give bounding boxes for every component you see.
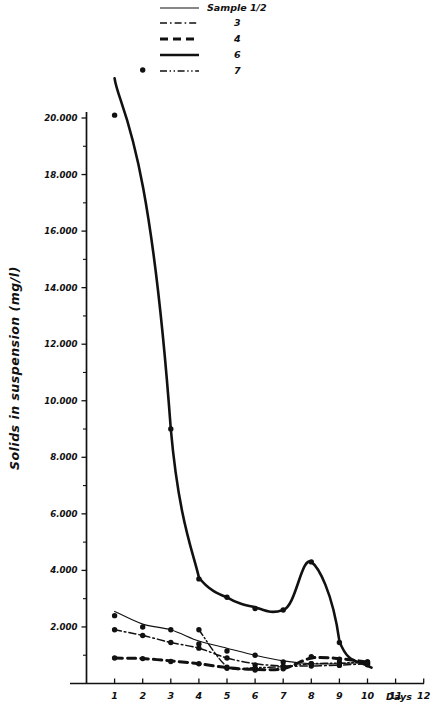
x-tick-label-9: 9: [336, 690, 343, 701]
y-axis-title: Solids in suspension (mg/l): [7, 266, 22, 470]
y-axis-tick-labels: 2.0004.0006.0008.00010.00012.00014.00016…: [44, 113, 77, 632]
data-point: [309, 661, 314, 666]
chart-container: Sample 1/2 3 4 6 7 2.0004.0006.0008.0: [0, 0, 446, 725]
solids-in-suspension-chart: Sample 1/2 3 4 6 7 2.0004.0006.0008.0: [0, 0, 446, 725]
data-point: [196, 576, 201, 581]
data-point: [196, 645, 201, 650]
x-tick-label-10: 10: [361, 690, 375, 701]
data-point: [224, 655, 229, 660]
x-tick-label-7: 7: [280, 690, 287, 701]
data-point: [112, 655, 117, 660]
data-point: [252, 666, 257, 671]
data-point: [365, 659, 370, 664]
y-tick-label-2.000: 2.000: [50, 622, 77, 632]
data-point: [281, 664, 286, 669]
y-tick-label-14.000: 14.000: [44, 283, 77, 293]
data-point: [140, 656, 145, 661]
data-point: [252, 606, 257, 611]
data-point: [337, 661, 342, 666]
y-tick-label-10.000: 10.000: [44, 396, 77, 406]
y-tick-label-20.000: 20.000: [44, 113, 77, 123]
data-point: [196, 661, 201, 666]
data-point: [309, 654, 314, 659]
x-axis-title: Days: [386, 691, 412, 702]
data-point: [168, 627, 173, 632]
legend-label-2: 4: [233, 33, 241, 44]
x-tick-label-3: 3: [167, 690, 174, 701]
data-point: [112, 627, 117, 632]
legend-entry-0: Sample 1/2: [160, 2, 267, 13]
x-axis-tick-labels: 123456789101112: [111, 690, 430, 701]
y-axis: 2.0004.0006.0008.00010.00012.00014.00016…: [7, 112, 87, 684]
data-point: [309, 559, 314, 564]
data-point: [281, 607, 286, 612]
series-data-points: [112, 67, 370, 672]
y-tick-label-18.000: 18.000: [44, 170, 77, 180]
x-tick-label-6: 6: [252, 690, 259, 701]
data-point: [140, 633, 145, 638]
x-tick-label-2: 2: [139, 690, 146, 701]
series-curve-6: [115, 78, 372, 667]
data-point: [337, 640, 342, 645]
legend-entry-1: 3: [160, 17, 241, 28]
data-point: [252, 653, 257, 658]
legend-entry-3: 6: [160, 49, 241, 60]
x-tick-label-8: 8: [308, 690, 315, 701]
y-tick-label-16.000: 16.000: [44, 226, 77, 236]
legend: Sample 1/2 3 4 6 7: [160, 2, 267, 76]
data-point: [196, 627, 201, 632]
x-tick-label-5: 5: [224, 690, 231, 701]
y-tick-label-4.000: 4.000: [49, 565, 77, 575]
legend-entry-2: 4: [160, 33, 241, 44]
data-point: [224, 648, 229, 653]
data-point: [168, 640, 173, 645]
data-point: [140, 624, 145, 629]
legend-label-0: Sample 1/2: [207, 2, 267, 13]
legend-label-1: 3: [234, 17, 241, 28]
x-tick-label-4: 4: [195, 690, 203, 701]
series-curves: [115, 78, 372, 669]
y-tick-label-12.000: 12.000: [44, 339, 77, 349]
legend-label-4: 7: [234, 65, 241, 76]
data-point: [224, 664, 229, 669]
x-tick-label-12: 12: [417, 690, 431, 701]
x-axis: 123456789101112 Days: [70, 679, 431, 703]
data-point: [168, 426, 173, 431]
data-point: [112, 613, 117, 618]
y-tick-label-8.000: 8.000: [50, 452, 77, 462]
x-tick-label-1: 1: [111, 690, 118, 701]
data-point: [112, 112, 117, 117]
series-curve-3: [115, 630, 368, 666]
y-tick-label-6.000: 6.000: [50, 509, 77, 519]
legend-entry-4: 7: [160, 65, 241, 76]
data-point: [140, 67, 145, 72]
data-point: [168, 659, 173, 664]
data-point: [224, 595, 229, 600]
legend-label-3: 6: [234, 49, 241, 60]
